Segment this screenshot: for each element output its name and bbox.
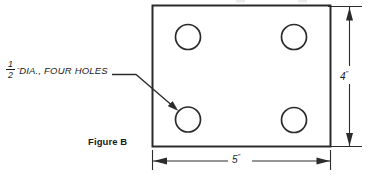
hole-bottom-right [282, 108, 307, 133]
hole-bottom-left [176, 107, 201, 132]
page-artifact-marks [236, 0, 307, 3]
figure-caption: Figure B [88, 136, 127, 147]
width-inch-mark: " [238, 153, 241, 160]
fraction-numerator: 1 [7, 60, 14, 70]
dimension-width [153, 150, 331, 170]
hole-top-left [176, 25, 201, 50]
hole-top-right [282, 25, 307, 50]
hole-diameter-callout: 1 2 " DIA., FOUR HOLES [6, 60, 108, 80]
height-dimension-label: 4" [340, 70, 348, 82]
callout-description: DIA., FOUR HOLES [19, 65, 108, 76]
width-dimension-label: 5" [232, 153, 240, 165]
fraction-denominator: 2 [7, 70, 14, 80]
height-inch-mark: " [346, 70, 349, 77]
fraction-one-half: 1 2 [6, 60, 15, 80]
technical-drawing-figure: 1 2 " DIA., FOUR HOLES Figure B 5" 4" [0, 0, 367, 175]
drawing-canvas [0, 0, 367, 175]
